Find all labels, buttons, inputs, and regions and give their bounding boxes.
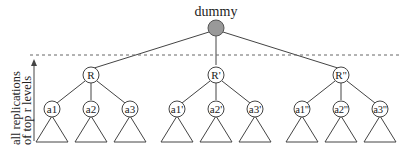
svg-text:a1'': a1'' (295, 104, 309, 115)
svg-text:a3': a3' (249, 103, 261, 115)
replica-subtree-r: R a1 a2 a3 (36, 67, 146, 142)
side-label-line2: of top r levels (20, 76, 34, 145)
svg-text:a3'': a3'' (373, 104, 387, 115)
svg-text:a1: a1 (47, 103, 57, 115)
svg-text:R: R (87, 69, 95, 81)
replica-subtree-r-prime: R' a1' a2' a3' (161, 67, 271, 142)
svg-text:a2: a2 (86, 103, 96, 115)
svg-text:a2': a2' (210, 103, 222, 115)
svg-text:a2'': a2'' (334, 104, 348, 115)
svg-text:a3: a3 (125, 103, 136, 115)
root-label: dummy (195, 4, 238, 19)
replica-subtree-r-double-prime: R'' a1'' a2'' a3'' (286, 67, 396, 142)
replication-tree-diagram: dummy all replications of top r levels R… (0, 0, 411, 155)
root-edges (91, 32, 341, 69)
svg-text:R'': R'' (335, 69, 346, 81)
svg-text:a1': a1' (171, 103, 183, 115)
svg-text:R': R' (211, 69, 220, 81)
dummy-node (208, 20, 224, 36)
